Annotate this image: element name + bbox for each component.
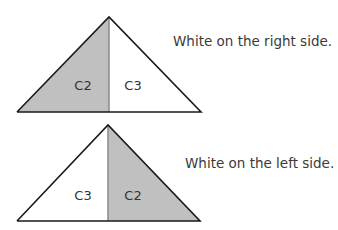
label-top-right: C3 [124,78,141,93]
triangle-top: C2 C3 [17,17,201,112]
triangle-bottom: C3 C2 [17,125,200,221]
label-bottom-right: C2 [124,188,141,203]
caption-top: White on the right side. [173,33,332,49]
label-top-left: C2 [74,78,91,93]
label-bottom-left: C3 [74,188,91,203]
caption-bottom: White on the left side. [185,155,334,171]
